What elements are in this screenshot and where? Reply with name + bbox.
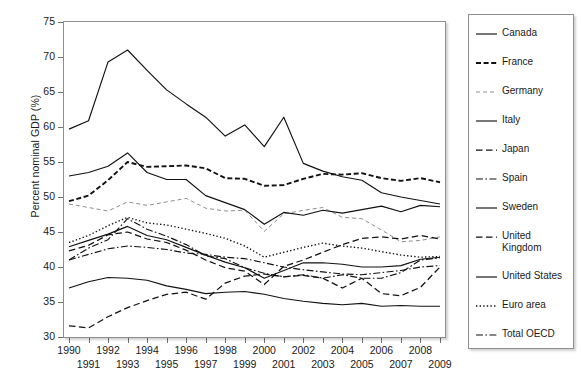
legend-item[interactable]: Sweden xyxy=(476,201,538,214)
x-axis-tick-mark xyxy=(147,338,148,343)
x-axis-tick-label: 2008 xyxy=(400,345,440,356)
x-axis-tick-mark xyxy=(284,338,285,343)
y-axis-tick-label: 35 xyxy=(15,296,55,307)
x-axis-tick-label: 2006 xyxy=(361,345,401,356)
legend-label: Italy xyxy=(497,114,520,126)
x-axis-tick-mark xyxy=(420,338,421,343)
x-axis-tick-mark xyxy=(323,338,324,343)
x-axis-tick-mark xyxy=(264,338,265,343)
legend-label: United Kingdom xyxy=(497,230,541,253)
x-axis-tick-label: 2000 xyxy=(244,345,284,356)
legend-item[interactable]: Euro area xyxy=(476,299,546,312)
legend-item[interactable]: Japan xyxy=(476,143,529,156)
legend-line-icon xyxy=(476,300,497,312)
y-axis-tick-label: 55 xyxy=(15,156,55,167)
x-axis-tick-label: 1995 xyxy=(147,359,187,370)
y-axis-tick-label: 45 xyxy=(15,226,55,237)
legend-item[interactable]: France xyxy=(476,56,533,69)
legend-label: Sweden xyxy=(497,201,538,213)
x-axis-tick-label: 2004 xyxy=(322,345,362,356)
y-axis-tick-label: 65 xyxy=(15,86,55,97)
x-axis-tick-label: 2007 xyxy=(381,359,421,370)
legend-item[interactable]: Canada xyxy=(476,27,537,40)
legend-label: Total OECD xyxy=(497,328,555,340)
x-axis-tick-label: 2009 xyxy=(420,359,460,370)
x-axis-tick-mark xyxy=(128,338,129,343)
x-axis-tick-mark xyxy=(206,338,207,343)
x-axis-tick-mark xyxy=(186,338,187,343)
series-lines xyxy=(64,22,445,337)
legend-line-icon xyxy=(476,115,497,127)
series-line xyxy=(69,198,440,241)
x-axis-tick-label: 1991 xyxy=(69,359,109,370)
series-line xyxy=(69,267,440,328)
x-axis-tick-label: 1992 xyxy=(88,345,128,356)
series-line xyxy=(69,50,440,204)
x-axis-tick-mark xyxy=(362,338,363,343)
x-axis-tick-mark xyxy=(401,338,402,343)
legend-line-icon xyxy=(476,329,497,341)
legend-line-icon xyxy=(476,86,497,98)
x-axis-tick-label: 1993 xyxy=(108,359,148,370)
x-axis-tick-mark xyxy=(342,338,343,343)
x-axis-tick-mark xyxy=(381,338,382,343)
x-axis-tick-mark xyxy=(167,338,168,343)
x-axis-tick-label: 1999 xyxy=(225,359,265,370)
series-line xyxy=(69,162,440,201)
legend-item[interactable]: Germany xyxy=(476,85,543,98)
legend-label: Canada xyxy=(497,27,537,39)
x-axis-tick-mark xyxy=(303,338,304,343)
x-axis-tick-mark xyxy=(225,338,226,343)
x-axis-tick-mark xyxy=(89,338,90,343)
x-axis-tick-label: 2001 xyxy=(264,359,304,370)
x-axis-tick-mark xyxy=(69,338,70,343)
x-axis-tick-label: 2005 xyxy=(342,359,382,370)
plot-area xyxy=(63,21,446,338)
x-axis-tick-label: 1990 xyxy=(49,345,89,356)
series-line xyxy=(69,278,440,307)
y-axis-tick-label: 30 xyxy=(15,331,55,342)
x-axis-tick-label: 1994 xyxy=(127,345,167,356)
y-axis-tick-label: 50 xyxy=(15,191,55,202)
legend-item[interactable]: Spain xyxy=(476,172,528,185)
y-axis-tick-label: 70 xyxy=(15,51,55,62)
legend-line-icon xyxy=(476,57,497,69)
x-axis-tick-label: 1998 xyxy=(205,345,245,356)
x-axis-tick-label: 2003 xyxy=(303,359,343,370)
legend-line-icon xyxy=(476,231,497,243)
y-axis-tick-label: 75 xyxy=(15,16,55,27)
legend-item[interactable]: Italy xyxy=(476,114,520,127)
x-axis-tick-label: 1997 xyxy=(186,359,226,370)
legend-line-icon xyxy=(476,271,497,283)
legend-label: Germany xyxy=(497,85,543,97)
legend-line-icon xyxy=(476,202,497,214)
legend-item[interactable]: United States xyxy=(476,270,562,283)
legend-line-icon xyxy=(476,144,497,156)
legend-item[interactable]: Total OECD xyxy=(476,328,555,341)
legend-item[interactable]: United Kingdom xyxy=(476,230,541,253)
legend-label: Euro area xyxy=(497,299,546,311)
x-axis-tick-mark xyxy=(440,338,441,343)
legend-line-icon xyxy=(476,28,497,40)
legend-label: United States xyxy=(497,270,562,282)
legend-label: Japan xyxy=(497,143,529,155)
chart-legend: CanadaFranceGermanyItalyJapanSpainSweden… xyxy=(468,14,574,349)
x-axis-tick-mark xyxy=(245,338,246,343)
legend-label: France xyxy=(497,56,533,68)
x-axis-tick-label: 2002 xyxy=(283,345,323,356)
series-line xyxy=(69,232,440,285)
chart-container: Percent nominal GDP (%) 3035404550556065… xyxy=(0,0,581,380)
x-axis-tick-mark xyxy=(108,338,109,343)
legend-line-icon xyxy=(476,173,497,185)
y-axis-tick-label: 60 xyxy=(15,121,55,132)
y-axis-tick-label: 40 xyxy=(15,261,55,272)
x-axis-tick-label: 1996 xyxy=(166,345,206,356)
legend-label: Spain xyxy=(497,172,528,184)
